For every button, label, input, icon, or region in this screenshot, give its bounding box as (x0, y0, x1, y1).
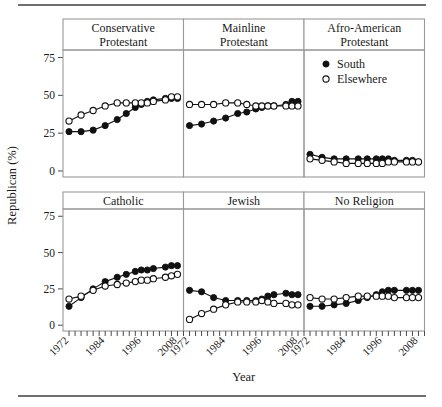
data-point-elsewhere (307, 295, 313, 301)
data-point-elsewhere (223, 302, 229, 308)
data-point-elsewhere (283, 103, 289, 109)
data-point-elsewhere (319, 296, 325, 302)
legend-label-elsewhere: Elsewhere (337, 72, 387, 86)
y-axis-tick-label: 75 (44, 52, 56, 64)
data-point-elsewhere (343, 160, 349, 166)
data-point-south (174, 263, 180, 269)
data-point-south (295, 292, 301, 298)
panel-strip-label: Protestant (99, 35, 148, 49)
data-point-elsewhere (283, 300, 289, 306)
series-line-elsewhere (69, 274, 177, 299)
data-point-south (66, 303, 72, 309)
data-point-elsewhere (211, 306, 217, 312)
y-axis-tick-label: 25 (44, 127, 56, 139)
data-point-elsewhere (144, 100, 150, 106)
data-point-elsewhere (343, 295, 349, 301)
data-point-elsewhere (162, 274, 168, 280)
data-point-elsewhere (355, 160, 361, 166)
data-point-elsewhere (355, 293, 361, 299)
data-point-elsewhere (186, 101, 192, 107)
data-point-south (114, 274, 120, 280)
data-point-elsewhere (174, 271, 180, 277)
data-point-elsewhere (168, 273, 174, 279)
data-point-elsewhere (174, 94, 180, 100)
data-point-elsewhere (78, 112, 84, 118)
data-point-elsewhere (265, 299, 271, 305)
data-point-south (244, 109, 250, 115)
data-point-south (186, 287, 192, 293)
y-axis-tick-label: 0 (49, 165, 55, 177)
data-point-elsewhere (102, 283, 108, 289)
data-point-south (186, 123, 192, 129)
data-point-elsewhere (379, 293, 385, 299)
data-point-south (211, 295, 217, 301)
data-point-elsewhere (265, 103, 271, 109)
data-point-elsewhere (102, 103, 108, 109)
data-point-south (90, 127, 96, 133)
y-axis-tick-label: 50 (44, 247, 56, 259)
y-axis-tick-label: 25 (44, 283, 56, 295)
data-point-elsewhere (373, 293, 379, 299)
panel-strip-label: Afro-American (327, 21, 401, 35)
panel-strip-label: Protestant (220, 35, 269, 49)
data-point-elsewhere (244, 299, 250, 305)
panel-strip-label: Jewish (227, 194, 260, 208)
data-point-south (123, 271, 129, 277)
data-point-south (144, 267, 150, 273)
data-point-elsewhere (259, 297, 265, 303)
data-point-elsewhere (132, 100, 138, 106)
data-point-south (150, 265, 156, 271)
data-point-elsewhere (123, 280, 129, 286)
legend-marker-elsewhere (323, 76, 329, 82)
data-point-elsewhere (253, 103, 259, 109)
data-point-elsewhere (409, 159, 415, 165)
data-point-south (123, 110, 129, 116)
data-point-elsewhere (295, 103, 301, 109)
data-point-south (271, 292, 277, 298)
y-axis-title: Republican (%) (5, 146, 19, 225)
data-point-elsewhere (132, 279, 138, 285)
x-axis-tick-label: 1984 (203, 334, 227, 358)
data-point-elsewhere (307, 156, 313, 162)
data-point-elsewhere (415, 159, 421, 165)
data-point-south (114, 116, 120, 122)
data-point-south (162, 264, 168, 270)
data-point-south (319, 303, 325, 309)
data-point-elsewhere (235, 299, 241, 305)
panel-strip-label: Conservative (92, 21, 155, 35)
data-point-elsewhere (253, 299, 259, 305)
data-point-south (409, 287, 415, 293)
data-point-elsewhere (385, 159, 391, 165)
data-point-elsewhere (373, 160, 379, 166)
data-point-south (289, 292, 295, 298)
data-point-south (132, 268, 138, 274)
data-point-south (415, 287, 421, 293)
data-point-elsewhere (198, 101, 204, 107)
data-point-south (66, 129, 72, 135)
data-point-elsewhere (259, 103, 265, 109)
data-point-elsewhere (409, 295, 415, 301)
figure-container: 02550750255075Republican (%)Conservative… (0, 0, 442, 407)
data-point-elsewhere (123, 100, 129, 106)
data-point-south (391, 287, 397, 293)
data-point-south (223, 115, 229, 121)
data-point-elsewhere (144, 277, 150, 283)
x-axis-tick-label: 1996 (119, 334, 143, 358)
data-point-elsewhere (364, 293, 370, 299)
data-point-elsewhere (385, 293, 391, 299)
data-point-elsewhere (244, 101, 250, 107)
data-point-south (138, 267, 144, 273)
data-point-elsewhere (391, 295, 397, 301)
data-point-elsewhere (271, 300, 277, 306)
y-axis-tick-label: 75 (44, 210, 56, 222)
x-axis-tick-label: 1984 (83, 334, 107, 358)
data-point-elsewhere (211, 101, 217, 107)
data-point-south (168, 263, 174, 269)
data-point-south (211, 118, 217, 124)
data-point-elsewhere (289, 302, 295, 308)
data-point-elsewhere (271, 103, 277, 109)
x-axis-tick-label: 1996 (360, 334, 384, 358)
data-point-elsewhere (168, 94, 174, 100)
panel-strip-label: No Religion (335, 194, 394, 208)
data-point-elsewhere (90, 107, 96, 113)
